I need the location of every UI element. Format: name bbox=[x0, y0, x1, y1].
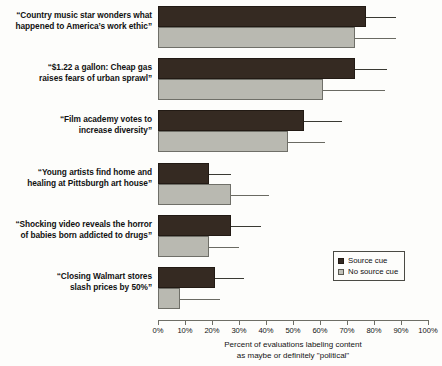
x-tick-label: 80% bbox=[366, 326, 381, 335]
category-label-2: “Film academy votes to increase diversit… bbox=[0, 114, 152, 135]
category-label-4: “Shocking video reveals the horror of ba… bbox=[0, 219, 152, 240]
bar-source-cue bbox=[158, 267, 215, 288]
x-tick-label: 10% bbox=[177, 326, 192, 335]
category-label-2-line1: “Film academy votes to bbox=[60, 114, 152, 124]
category-label-0-line1: “Country music star wonders what bbox=[16, 10, 152, 20]
bar-group bbox=[158, 6, 428, 48]
bar-source-cue bbox=[158, 110, 304, 131]
category-label-5: “Closing Walmart stores slash prices by … bbox=[0, 271, 152, 292]
error-bar bbox=[355, 69, 387, 70]
x-tick bbox=[185, 320, 186, 325]
category-label-column: “Country music star wonders what happene… bbox=[0, 2, 152, 316]
x-tick bbox=[428, 320, 429, 325]
x-tick bbox=[401, 320, 402, 325]
bar-chart: “Country music star wonders what happene… bbox=[0, 0, 442, 366]
category-label-4-line2: of babies born addicted to drugs” bbox=[20, 230, 152, 240]
category-label-4-line1: “Shocking video reveals the horror bbox=[15, 219, 152, 229]
x-axis-title-line1: Percent of evaluations labeling content bbox=[224, 340, 361, 349]
bar-source-cue bbox=[158, 163, 209, 184]
category-label-2-line2: increase diversity” bbox=[79, 125, 152, 135]
error-bar bbox=[288, 142, 326, 143]
legend-label-source-cue: Source cue bbox=[348, 255, 387, 266]
bar-no-source-cue bbox=[158, 79, 323, 100]
error-bar bbox=[323, 90, 385, 91]
x-tick-label: 0% bbox=[153, 326, 164, 335]
error-bar bbox=[304, 121, 342, 122]
category-label-0: “Country music star wonders what happene… bbox=[0, 10, 152, 31]
legend: Source cue No source cue bbox=[333, 251, 405, 281]
category-label-3: “Young artists find home and healing at … bbox=[0, 167, 152, 188]
category-label-3-line1: “Young artists find home and bbox=[38, 167, 152, 177]
bar-group bbox=[158, 163, 428, 205]
category-label-5-line1: “Closing Walmart stores bbox=[57, 271, 152, 281]
bar-source-cue bbox=[158, 58, 355, 79]
bar-source-cue bbox=[158, 215, 231, 236]
legend-item-no-source-cue: No source cue bbox=[338, 266, 398, 277]
bar-no-source-cue bbox=[158, 236, 209, 257]
x-tick bbox=[158, 320, 159, 325]
legend-swatch-source-cue bbox=[338, 258, 344, 264]
x-tick bbox=[320, 320, 321, 325]
x-tick-label: 100% bbox=[418, 326, 437, 335]
bar-no-source-cue bbox=[158, 184, 231, 205]
bar-no-source-cue bbox=[158, 27, 355, 48]
x-tick-label: 20% bbox=[204, 326, 219, 335]
error-bar bbox=[209, 247, 239, 248]
category-label-1: “$1.22 a gallon: Cheap gas raises fears … bbox=[0, 62, 152, 83]
legend-item-source-cue: Source cue bbox=[338, 255, 398, 266]
x-tick bbox=[212, 320, 213, 325]
x-tick bbox=[266, 320, 267, 325]
category-label-1-line2: raises fears of urban sprawl” bbox=[39, 73, 152, 83]
legend-swatch-no-source-cue bbox=[338, 269, 344, 275]
bar-group bbox=[158, 110, 428, 152]
x-axis-title: Percent of evaluations labeling content … bbox=[158, 340, 428, 361]
legend-label-no-source-cue: No source cue bbox=[348, 266, 398, 277]
x-tick bbox=[293, 320, 294, 325]
bar-no-source-cue bbox=[158, 288, 180, 309]
x-tick bbox=[374, 320, 375, 325]
x-tick-label: 40% bbox=[258, 326, 273, 335]
bar-group bbox=[158, 58, 428, 100]
category-label-1-line1: “$1.22 a gallon: Cheap gas bbox=[48, 62, 152, 72]
x-tick-label: 60% bbox=[312, 326, 327, 335]
bar-source-cue bbox=[158, 6, 366, 27]
error-bar bbox=[180, 299, 221, 300]
error-bar bbox=[215, 278, 245, 279]
x-tick bbox=[239, 320, 240, 325]
x-tick-label: 50% bbox=[285, 326, 300, 335]
x-axis-title-line2: as maybe or definitely "political" bbox=[237, 351, 349, 360]
error-bar bbox=[355, 38, 396, 39]
x-tick-label: 90% bbox=[393, 326, 408, 335]
x-tick bbox=[347, 320, 348, 325]
bar-no-source-cue bbox=[158, 131, 288, 152]
category-label-0-line2: happened to America’s work ethic” bbox=[15, 21, 152, 31]
error-bar bbox=[231, 195, 269, 196]
error-bar bbox=[366, 17, 396, 18]
x-tick-label: 30% bbox=[231, 326, 246, 335]
error-bar bbox=[209, 174, 231, 175]
category-label-3-line2: healing at Pittsburgh art house” bbox=[27, 178, 152, 188]
x-tick-label: 70% bbox=[339, 326, 354, 335]
category-label-5-line2: slash prices by 50%” bbox=[70, 282, 152, 292]
error-bar bbox=[231, 226, 261, 227]
